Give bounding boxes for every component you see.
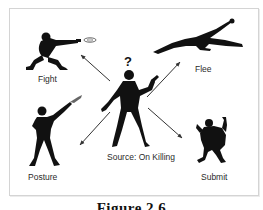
posture-label: Posture bbox=[28, 172, 57, 182]
center-figure-icon: ? bbox=[101, 54, 159, 147]
fight-label: Fight bbox=[38, 74, 57, 84]
source-label: Source: On Killing bbox=[107, 152, 175, 162]
posture-figure-icon bbox=[29, 95, 82, 166]
submit-figure-icon bbox=[196, 117, 227, 163]
flee-label: Flee bbox=[195, 64, 212, 74]
arrow-to-posture bbox=[80, 112, 110, 145]
question-mark-icon: ? bbox=[124, 54, 132, 69]
figure-caption: Figure 2.6 bbox=[0, 200, 263, 210]
fight-figure-icon bbox=[26, 33, 96, 71]
flee-figure-icon bbox=[153, 19, 243, 55]
arrow-to-submit bbox=[148, 108, 182, 138]
submit-label: Submit bbox=[201, 172, 227, 182]
arrow-to-fight bbox=[81, 55, 110, 81]
